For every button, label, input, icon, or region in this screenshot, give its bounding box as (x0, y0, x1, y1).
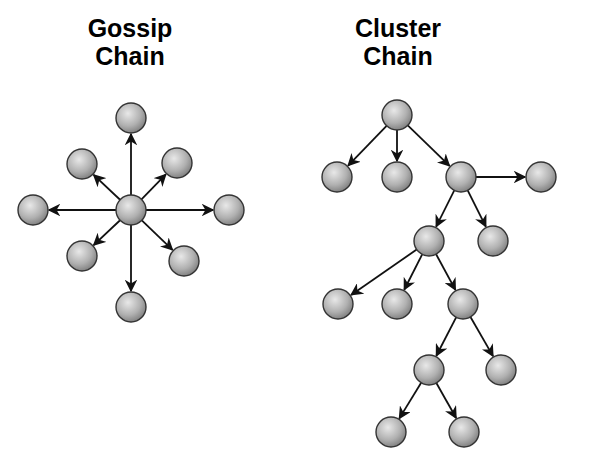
cluster-node-c2 (382, 289, 412, 319)
gossip-node-left (18, 195, 48, 225)
arrow-edge (404, 254, 422, 289)
arrow-edge (348, 126, 386, 166)
gossip-node-center (116, 195, 146, 225)
arrow-edge (468, 190, 486, 226)
cluster-node-a3 (446, 162, 476, 192)
gossip-node-lower-left (67, 241, 97, 271)
network-diagrams (0, 0, 594, 459)
cluster-node-a2 (382, 162, 412, 192)
gossip-node-top (116, 103, 146, 133)
arrow-edge (408, 125, 450, 165)
arrow-edge (94, 220, 120, 245)
arrow-edge (436, 383, 456, 418)
cluster-node-a1 (322, 162, 352, 192)
arrow-edge (142, 220, 173, 250)
arrow-edge (436, 190, 454, 226)
cluster-node-a4 (526, 162, 556, 192)
arrow-edge (470, 317, 493, 356)
cluster-node-d2 (486, 355, 516, 385)
arrow-edge (141, 174, 165, 199)
gossip-node-bottom (116, 292, 146, 322)
arrow-edge (351, 250, 417, 295)
gossip-node-upper-left (67, 149, 97, 179)
gossip-node-lower-right (169, 246, 199, 276)
cluster-node-b1 (414, 226, 444, 256)
cluster-node-c1 (323, 289, 353, 319)
gossip-node-upper-right (162, 148, 192, 178)
arrow-edge (436, 317, 456, 355)
arrow-edge (399, 383, 421, 419)
arrow-edge (436, 254, 455, 290)
cluster-node-e2 (449, 417, 479, 447)
gossip-node-right (214, 195, 244, 225)
cluster-node-b2 (478, 226, 508, 256)
cluster-node-c3 (448, 289, 478, 319)
cluster-node-e1 (376, 417, 406, 447)
cluster-node-root (382, 100, 412, 130)
cluster-node-d1 (414, 355, 444, 385)
arrow-edge (94, 175, 120, 200)
